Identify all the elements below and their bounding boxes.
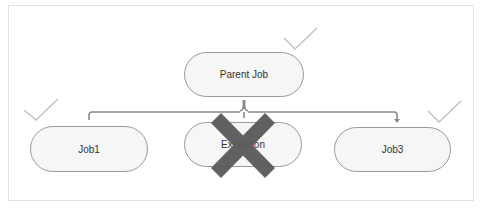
x-mark-icon (0, 0, 481, 210)
